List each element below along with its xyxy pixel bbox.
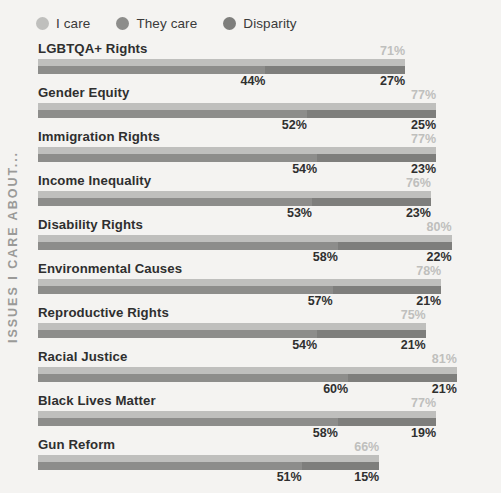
bar-group: Income Inequality76%53%23% bbox=[38, 173, 501, 217]
category-label: Gender Equity bbox=[38, 85, 129, 100]
value-label-i-care: 66% bbox=[354, 440, 379, 454]
plot-area: LGBTQA+ Rights71%44%27%Gender Equity77%5… bbox=[38, 41, 501, 493]
value-label-i-care: 77% bbox=[411, 88, 436, 102]
value-label-i-care: 75% bbox=[401, 308, 426, 322]
bar-i-care bbox=[38, 455, 379, 462]
value-label-i-care: 76% bbox=[406, 176, 431, 190]
category-label: Gun Reform bbox=[38, 437, 115, 452]
bar-disparity-segment bbox=[317, 330, 426, 338]
value-label-i-care: 77% bbox=[411, 396, 436, 410]
category-label: Racial Justice bbox=[38, 349, 127, 364]
chart-container: I care They care Disparity ISSUES I CARE… bbox=[0, 0, 501, 493]
circle-icon bbox=[36, 17, 49, 30]
bar-they-care bbox=[38, 374, 457, 382]
bar-disparity-segment bbox=[333, 286, 442, 294]
y-axis-title: ISSUES I CARE ABOUT... bbox=[0, 0, 26, 493]
bar-they-care bbox=[38, 330, 426, 338]
legend-label: Disparity bbox=[243, 16, 296, 31]
legend-item-disparity[interactable]: Disparity bbox=[223, 16, 296, 31]
value-label-i-care: 77% bbox=[411, 132, 436, 146]
bar-group: Immigration Rights77%54%23% bbox=[38, 129, 501, 173]
legend-item-i-care[interactable]: I care bbox=[36, 16, 90, 31]
bar-group: Disability Rights80%58%22% bbox=[38, 217, 501, 261]
bar-group: Gender Equity77%52%25% bbox=[38, 85, 501, 129]
bar-disparity-segment bbox=[265, 66, 405, 74]
bar-they-care bbox=[38, 110, 436, 118]
circle-icon bbox=[223, 17, 236, 30]
bar-group: Environmental Causes78%57%21% bbox=[38, 261, 501, 305]
y-axis-title-text: ISSUES I CARE ABOUT... bbox=[6, 150, 20, 342]
bar-group: LGBTQA+ Rights71%44%27% bbox=[38, 41, 501, 85]
category-label: LGBTQA+ Rights bbox=[38, 41, 147, 56]
bar-i-care bbox=[38, 147, 436, 154]
circle-icon bbox=[116, 17, 129, 30]
category-label: Reproductive Rights bbox=[38, 305, 169, 320]
bar-they-care bbox=[38, 198, 431, 206]
bar-i-care bbox=[38, 279, 441, 286]
bar-they-care bbox=[38, 418, 436, 426]
bar-disparity-segment bbox=[338, 418, 436, 426]
bar-group: Racial Justice81%60%21% bbox=[38, 349, 501, 393]
bar-disparity-segment bbox=[348, 374, 457, 382]
chart-legend: I care They care Disparity bbox=[36, 12, 297, 34]
bar-i-care bbox=[38, 367, 457, 374]
value-label-i-care: 71% bbox=[380, 44, 405, 58]
value-label-i-care: 80% bbox=[427, 220, 452, 234]
value-label-i-care: 78% bbox=[416, 264, 441, 278]
category-label: Environmental Causes bbox=[38, 261, 182, 276]
bar-they-care bbox=[38, 286, 441, 294]
category-label: Black Lives Matter bbox=[38, 393, 156, 408]
bar-i-care bbox=[38, 323, 426, 330]
bar-disparity-segment bbox=[338, 242, 452, 250]
bar-disparity-segment bbox=[302, 462, 380, 470]
category-label: Disability Rights bbox=[38, 217, 143, 232]
legend-item-they-care[interactable]: They care bbox=[116, 16, 197, 31]
value-label-disparity: 15% bbox=[354, 470, 379, 484]
bar-group: Gun Reform66%51%15% bbox=[38, 437, 501, 481]
bar-i-care bbox=[38, 235, 452, 242]
bar-i-care bbox=[38, 411, 436, 418]
bar-group: Reproductive Rights75%54%21% bbox=[38, 305, 501, 349]
bar-disparity-segment bbox=[312, 198, 431, 206]
category-label: Income Inequality bbox=[38, 173, 151, 188]
bar-i-care bbox=[38, 103, 436, 110]
bar-they-care bbox=[38, 242, 452, 250]
bar-i-care bbox=[38, 59, 405, 66]
bar-they-care bbox=[38, 154, 436, 162]
legend-label: They care bbox=[136, 16, 197, 31]
bar-they-care bbox=[38, 66, 405, 74]
bar-they-care bbox=[38, 462, 379, 470]
value-label-i-care: 81% bbox=[432, 352, 457, 366]
bar-group: Black Lives Matter77%58%19% bbox=[38, 393, 501, 437]
legend-label: I care bbox=[56, 16, 90, 31]
bar-i-care bbox=[38, 191, 431, 198]
category-label: Immigration Rights bbox=[38, 129, 160, 144]
value-label-they-care: 51% bbox=[277, 470, 302, 484]
bar-disparity-segment bbox=[307, 110, 436, 118]
bar-disparity-segment bbox=[317, 154, 436, 162]
